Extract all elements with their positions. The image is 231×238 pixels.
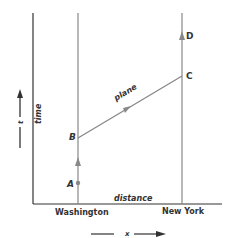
event-d-label: D (186, 31, 193, 41)
event-c-label: C (186, 71, 193, 81)
x-arrow-head-icon (156, 231, 166, 237)
time-label: time (34, 103, 43, 124)
t-arrow-head-icon (17, 89, 23, 98)
event-a-label: A (66, 179, 74, 189)
plane-label: plane (112, 82, 139, 103)
event-b-label: B (69, 132, 76, 142)
washington-label: Washington (55, 208, 109, 217)
new-york-label: New York (162, 207, 205, 216)
event-a-dot (76, 181, 80, 185)
spacetime-diagram: A B C D plane time t distance Washington… (0, 0, 231, 238)
distance-label: distance (114, 194, 153, 203)
plane-direction-arrow-icon (123, 106, 131, 113)
new-york-up-arrow-icon (179, 31, 185, 40)
washington-up-arrow-icon (75, 157, 81, 166)
x-arrow-label: x (124, 230, 130, 238)
